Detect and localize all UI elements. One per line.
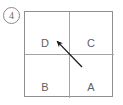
quadrant-label-top-left: D — [39, 38, 51, 49]
quadrant-label-bottom-left: B — [39, 82, 51, 93]
horizontal-divider — [25, 54, 114, 55]
quadrant-diagram: 4 D C B A — [0, 0, 123, 105]
quadrant-label-top-right: C — [85, 38, 97, 49]
quadrant-label-bottom-right: A — [85, 82, 97, 93]
vertical-divider — [69, 12, 70, 98]
item-number-badge: 4 — [3, 7, 20, 24]
quadrant-grid: D C B A — [24, 11, 113, 97]
